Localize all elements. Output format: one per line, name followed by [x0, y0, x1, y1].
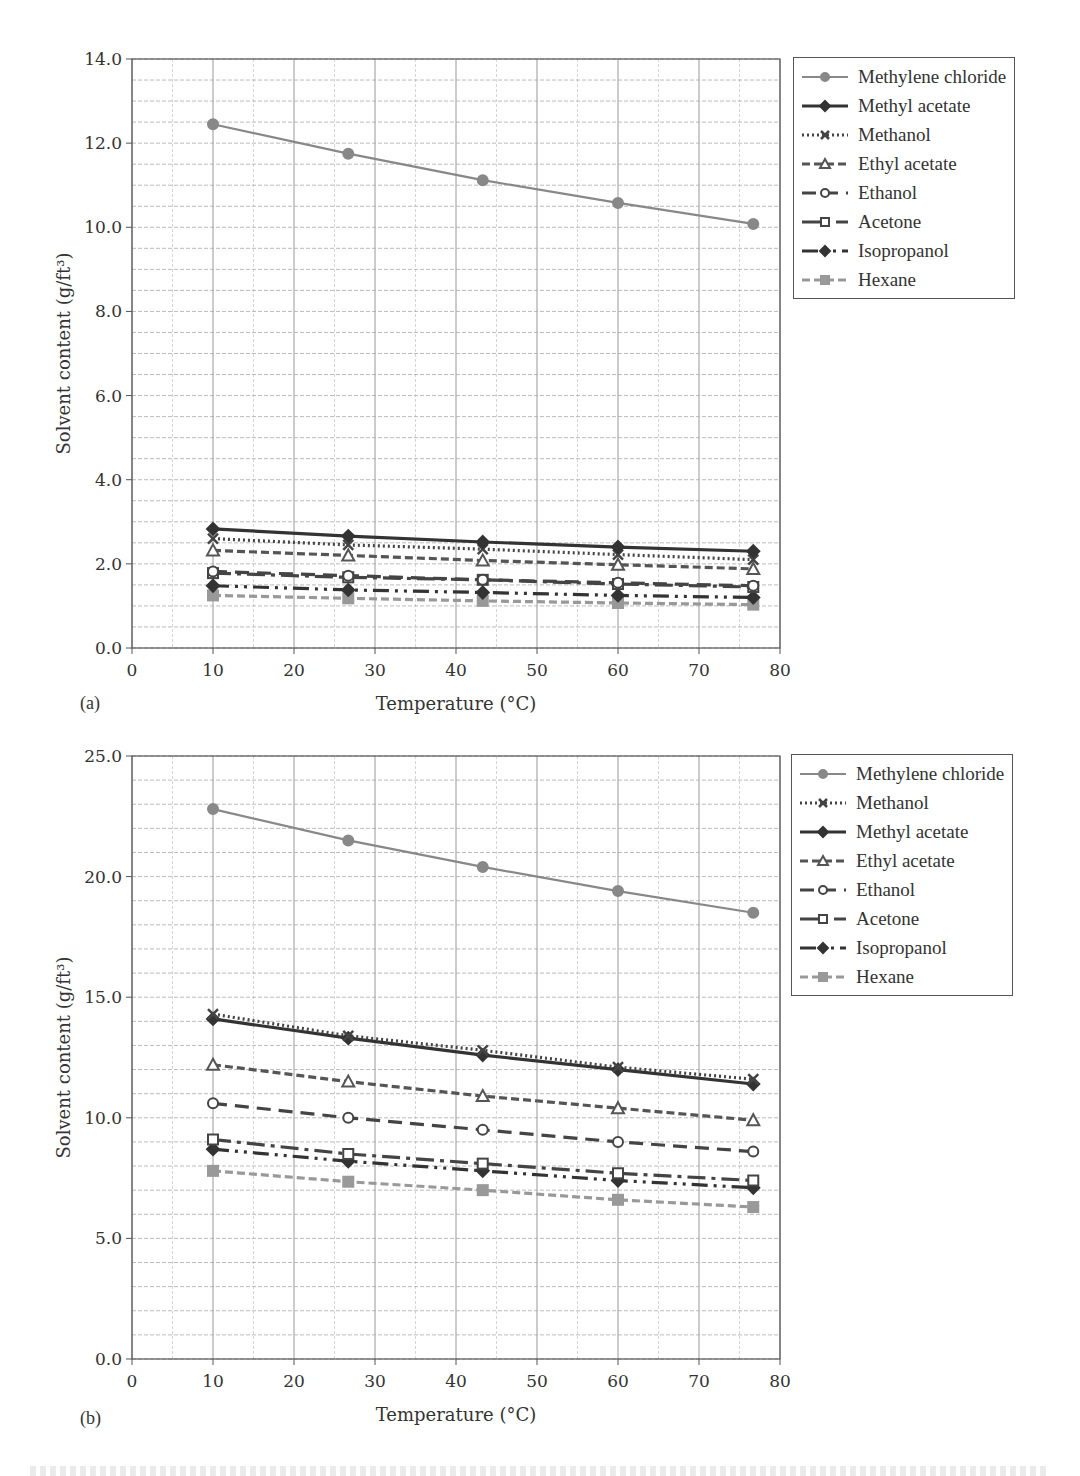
legend-swatch-icon	[800, 185, 850, 201]
y-tick-label: 15.0	[84, 987, 122, 1007]
legend-swatch-icon	[798, 853, 848, 869]
legend-label: Methylene chloride	[856, 763, 1004, 785]
legend-swatch-icon	[800, 243, 850, 259]
legend-label: Methanol	[858, 124, 931, 146]
legend-swatch-icon	[800, 127, 850, 143]
gridlines	[132, 756, 780, 1359]
legend-item: Hexane	[798, 962, 1004, 991]
y-tick-label: 14.0	[84, 49, 122, 69]
y-axis-label: Solvent content (g/ft³)	[53, 957, 74, 1159]
legend-swatch-icon	[798, 795, 848, 811]
legend-item: Methyl acetate	[800, 91, 1006, 120]
y-tick-label: 20.0	[84, 867, 122, 887]
legend-label: Ethanol	[858, 182, 917, 204]
legend-swatch-icon	[800, 98, 850, 114]
legend-label: Acetone	[858, 211, 921, 233]
x-tick-label: 30	[364, 1371, 386, 1391]
legend-swatch-icon	[800, 156, 850, 172]
legend-swatch-icon	[800, 214, 850, 230]
x-tick-label: 60	[607, 1371, 629, 1391]
legend-label: Ethyl acetate	[858, 153, 957, 175]
legend-swatch-icon	[798, 911, 848, 927]
panel-label-b: (b)	[80, 1408, 101, 1429]
x-tick-label: 40	[445, 660, 467, 680]
x-tick-label: 70	[688, 1371, 710, 1391]
legend-label: Methanol	[856, 792, 929, 814]
legend-label: Methylene chloride	[858, 66, 1006, 88]
legend-item: Methyl acetate	[798, 817, 1004, 846]
legend-item: Isopropanol	[800, 236, 1006, 265]
legend-label: Hexane	[858, 269, 916, 291]
legend-swatch-icon	[798, 882, 848, 898]
legend-swatch-icon	[798, 824, 848, 840]
legend-item: Acetone	[798, 904, 1004, 933]
legend-label: Isopropanol	[858, 240, 949, 262]
legend-item: Ethanol	[798, 875, 1004, 904]
legend-item: Ethyl acetate	[800, 149, 1006, 178]
legend-item: Ethanol	[800, 178, 1006, 207]
legend-item: Isopropanol	[798, 933, 1004, 962]
x-tick-label: 80	[769, 1371, 791, 1391]
y-tick-label: 12.0	[84, 133, 122, 153]
legend-label: Methyl acetate	[858, 95, 970, 117]
y-tick-label: 8.0	[95, 301, 122, 321]
y-tick-label: 2.0	[95, 554, 122, 574]
x-tick-label: 50	[526, 660, 548, 680]
figure-caption-cutoff	[30, 1466, 1050, 1476]
x-tick-label: 10	[202, 660, 224, 680]
legend-swatch-icon	[798, 940, 848, 956]
x-tick-label: 40	[445, 1371, 467, 1391]
legend-item: Methylene chloride	[800, 62, 1006, 91]
x-tick-label: 80	[769, 660, 791, 680]
x-tick-label: 70	[688, 660, 710, 680]
legend-b: Methylene chlorideMethanolMethyl acetate…	[791, 754, 1013, 996]
y-tick-label: 0.0	[95, 638, 122, 658]
x-tick-label: 10	[202, 1371, 224, 1391]
legend-item: Hexane	[800, 265, 1006, 294]
legend-label: Hexane	[856, 966, 914, 988]
series-methylene-chloride	[208, 119, 758, 229]
legend-label: Acetone	[856, 908, 919, 930]
y-tick-label: 5.0	[95, 1228, 122, 1248]
y-axis-label: Solvent content (g/ft³)	[53, 253, 74, 455]
legend-label: Isopropanol	[856, 937, 947, 959]
legend-swatch-icon	[800, 272, 850, 288]
legend-item: Methylene chloride	[798, 759, 1004, 788]
legend-item: Ethyl acetate	[798, 846, 1004, 875]
y-tick-label: 0.0	[95, 1349, 122, 1369]
x-tick-label: 20	[283, 1371, 305, 1391]
x-tick-label: 30	[364, 660, 386, 680]
chart-panel-a: 0.02.04.06.08.010.012.014.00102030405060…	[0, 0, 1080, 730]
chart-panel-b: 0.05.010.015.020.025.001020304050607080T…	[0, 730, 1080, 1430]
legend-item: Acetone	[800, 207, 1006, 236]
legend-label: Ethanol	[856, 879, 915, 901]
series-ethyl-acetate	[207, 1059, 759, 1125]
y-tick-label: 6.0	[95, 386, 122, 406]
legend-swatch-icon	[800, 69, 850, 85]
legend-a: Methylene chlorideMethyl acetateMethanol…	[793, 57, 1015, 299]
legend-label: Methyl acetate	[856, 821, 968, 843]
x-axis-label: Temperature (°C)	[376, 1404, 536, 1425]
x-tick-label: 20	[283, 660, 305, 680]
x-tick-label: 0	[127, 660, 138, 680]
y-tick-label: 10.0	[84, 1108, 122, 1128]
x-tick-label: 50	[526, 1371, 548, 1391]
legend-swatch-icon	[798, 969, 848, 985]
y-tick-label: 25.0	[84, 746, 122, 766]
legend-item: Methanol	[798, 788, 1004, 817]
x-tick-label: 60	[607, 660, 629, 680]
x-tick-label: 0	[127, 1371, 138, 1391]
x-axis-label: Temperature (°C)	[376, 693, 536, 714]
y-tick-label: 4.0	[95, 470, 122, 490]
legend-item: Methanol	[800, 120, 1006, 149]
y-tick-label: 10.0	[84, 217, 122, 237]
panel-label-a: (a)	[80, 693, 100, 714]
legend-label: Ethyl acetate	[856, 850, 955, 872]
legend-swatch-icon	[798, 766, 848, 782]
